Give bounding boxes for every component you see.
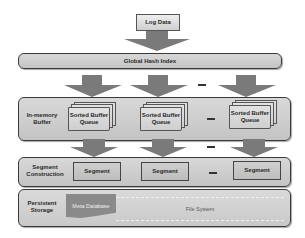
arrow-shape [230,139,278,157]
queue-label: Sorted Buffer [70,112,108,118]
arrow-shape [139,139,187,157]
file-system-label: File System [186,206,215,213]
segment-label: Segment [84,168,109,175]
in-memory-buffer-label: In-memory Buffer [22,112,62,126]
queue-label: Queue [80,119,99,125]
arrow-index-to-queue-2 [130,75,190,97]
arrow-ellipsis-top [198,84,206,86]
arrow-shape [218,75,276,97]
arrow-index-to-queue-1 [64,75,124,97]
queue-label: Queue [152,119,171,125]
queue-label: Queue [241,117,260,123]
segment-box-2: Segment [141,162,189,181]
log-data-box: Log Data [136,14,180,31]
global-hash-index-layer: Global Hash Index [18,53,282,69]
queue-sheet-front: Sorted BufferQueue [229,105,271,129]
arrow-shape [124,31,190,51]
arrow-shape [64,75,122,97]
label-line: Persistent [22,200,62,207]
arrow-shape [130,75,188,97]
label-line: Segment [22,164,68,171]
segment-box-3: Segment [233,161,281,180]
segment-label: Segment [152,168,177,175]
queue-sheet-front: Sorted BufferQueue [68,107,110,131]
file-system-region: File System [116,197,284,221]
global-hash-index-label: Global Hash Index [124,58,176,65]
label-line: Buffer [22,119,62,126]
sorted-buffer-queue-3: Sorted BufferQueue [229,100,275,128]
segment-ellipsis [209,172,217,174]
label-line: In-memory [22,112,62,119]
meta-database-label: Meta Database [72,203,109,210]
arrow-shape [70,139,118,157]
log-data-label: Log Data [145,19,171,26]
arrow-queue-to-segment-2 [139,139,189,157]
sorted-buffer-queue-1: Sorted BufferQueue [68,102,114,130]
arrow-log-to-index [122,31,192,51]
label-line: Storage [22,207,62,214]
persistent-storage-label: Persistent Storage [22,200,62,214]
arrow-ellipsis-bottom [207,146,215,148]
queue-sheet-front: Sorted BufferQueue [140,107,182,131]
arrow-queue-to-segment-1 [70,139,120,157]
arrow-queue-to-segment-3 [230,139,280,157]
segment-box-1: Segment [73,162,121,181]
segment-label: Segment [244,167,269,174]
segment-construction-label: Segment Construction [22,164,68,178]
sorted-buffer-queue-2: Sorted BufferQueue [140,102,186,130]
label-line: Construction [22,171,68,178]
queue-label: Sorted Buffer [231,110,269,116]
queue-ellipsis [207,118,215,120]
queue-label: Sorted Buffer [142,112,180,118]
arrow-index-to-queue-3 [218,75,278,97]
